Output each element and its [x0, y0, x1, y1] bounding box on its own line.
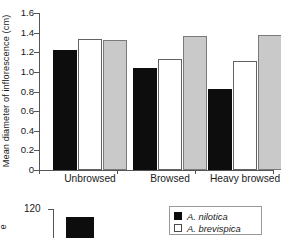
bar — [53, 50, 77, 170]
bar — [258, 35, 281, 170]
bar-groups: UnbrowsedBrowsedHeavy browsed — [39, 13, 273, 170]
bar — [233, 61, 257, 170]
bar-group — [133, 13, 207, 170]
legend-swatch-icon — [174, 224, 182, 232]
secondary-y-tick-label: 120 — [24, 204, 41, 213]
y-tick-label: 0.8 — [5, 88, 34, 96]
bar — [78, 39, 102, 170]
legend-item: A. nilotica — [174, 210, 257, 222]
x-axis-line — [39, 170, 273, 171]
x-axis-category-label: Unbrowsed — [45, 173, 135, 184]
bar — [133, 68, 157, 170]
y-tick-label: 0 — [5, 166, 34, 174]
inflorescence-diameter-bar-chart: Mean diameter of inflorescence (cm) 1.61… — [0, 0, 281, 196]
y-tick-label: 1.0 — [5, 68, 34, 76]
plot-area: 1.61.41.21.00.80.60.40.20 UnbrowsedBrows… — [39, 13, 273, 170]
bar-group — [53, 13, 127, 170]
legend-item-label: A. brevispica — [187, 223, 241, 234]
bar — [183, 36, 207, 170]
bar-group — [208, 13, 281, 170]
y-tick-label: 0.2 — [5, 146, 34, 154]
y-tick-label: 1.6 — [5, 9, 34, 17]
secondary-y-axis-line — [53, 209, 54, 238]
y-tick-label: 0.4 — [5, 127, 34, 135]
secondary-y-axis-label: e — [0, 216, 10, 238]
y-tick-label: 1.2 — [5, 48, 34, 56]
bar — [103, 40, 127, 170]
legend-item-label: A. nilotica — [187, 211, 228, 222]
bar — [208, 89, 232, 170]
x-axis-category-label: Heavy browsed — [200, 173, 281, 184]
y-tick-label: 1.4 — [5, 29, 34, 37]
legend-swatch-icon — [174, 212, 182, 220]
legend-item: A. brevispica — [174, 222, 257, 234]
legend: A. niloticaA. brevispica — [169, 206, 262, 235]
secondary-y-axis-label-text: e — [0, 224, 8, 229]
y-tick-label: 0.6 — [5, 107, 34, 115]
bar — [158, 59, 182, 170]
x-tick-mark — [39, 170, 40, 174]
secondary-bar — [66, 217, 94, 238]
